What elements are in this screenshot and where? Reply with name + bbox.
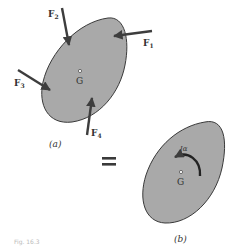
- part-b-label: (b): [174, 234, 187, 244]
- force-label-f2: F2: [48, 9, 59, 20]
- body-b: G Iα: [143, 122, 225, 224]
- body-a: G: [42, 18, 127, 122]
- center-of-mass-marker-a: [78, 69, 81, 72]
- force-label-f4: F4: [91, 128, 102, 139]
- force-label-f1: F1: [143, 38, 154, 49]
- part-a-label: (a): [49, 139, 62, 149]
- equals-sign: [102, 157, 116, 166]
- force-label-f3: F3: [14, 78, 25, 89]
- center-label-a: G: [76, 76, 83, 86]
- center-of-mass-marker-b: [179, 170, 182, 173]
- force-arrow-f2: [62, 8, 69, 45]
- figure-caption: Fig. 16.3: [14, 238, 40, 245]
- center-label-b: G: [177, 177, 184, 187]
- moment-label: Iα: [179, 145, 188, 153]
- rigid-body-diagram: G F2 F1 F3 F4 (a) G Iα (b): [0, 0, 234, 252]
